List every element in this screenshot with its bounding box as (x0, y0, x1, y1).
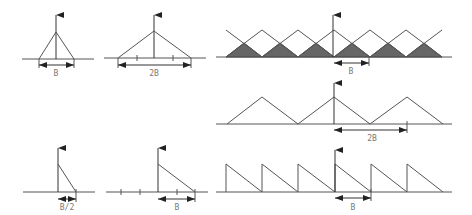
spectrum-diagram: B 2B B 2B (0, 0, 472, 215)
triangle-shape (158, 164, 195, 192)
bandwidth-label: B (351, 203, 356, 212)
bandwidth-label: B (54, 69, 59, 78)
bandwidth-label: B (175, 203, 180, 212)
bandwidth-label: B/2 (60, 203, 75, 212)
panel-half-triangle-narrow: B/2 (23, 148, 95, 212)
triangle-train (227, 97, 443, 124)
bandwidth-label: B (349, 67, 354, 76)
triangle-shape (58, 164, 76, 192)
panel-half-triangle-wide: B (106, 148, 208, 212)
panel-triangle-narrow: B (22, 15, 94, 78)
panel-overlapping-triangles: B (216, 15, 452, 76)
panel-triangle-wide: 2B (104, 15, 206, 78)
bandwidth-label: 2B (367, 134, 377, 143)
panel-periodic-triangles: 2B (216, 83, 452, 143)
bandwidth-label: 2B (149, 69, 159, 78)
panel-sawtooth: B (216, 150, 452, 212)
